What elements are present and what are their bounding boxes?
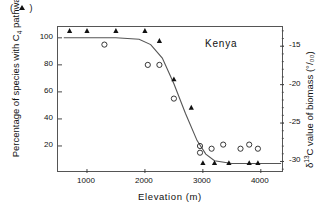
plot-area	[57, 26, 283, 172]
axis-tick-label: 40	[27, 113, 53, 122]
axis-tick-label: 2000	[124, 176, 164, 185]
axis-tick-label: 100	[27, 32, 53, 41]
axis-tick-label: 4000	[240, 176, 280, 185]
axis-tick-label: 3000	[182, 176, 222, 185]
data-layer	[58, 27, 284, 173]
axis-tick-label: -15	[289, 40, 315, 49]
axis-tick-label: -30	[289, 155, 315, 164]
x-axis-label: Elevation (m)	[57, 191, 283, 202]
bottom-axis-ticks	[87, 169, 261, 173]
axis-tick-label: 20	[27, 140, 53, 149]
y-axis-right-label: δ13C value of biomass (°/₀₀)	[303, 51, 315, 168]
series-triangles	[67, 28, 261, 165]
axis-tick-label: 60	[27, 86, 53, 95]
axis-tick-label: 80	[27, 59, 53, 68]
right-axis-ticks	[280, 31, 284, 169]
left-axis-ticks	[58, 38, 62, 146]
y-axis-left-label: Percentage of species with C4 pathway	[10, 0, 23, 170]
series-circles	[102, 42, 261, 155]
axis-tick-label: 1000	[66, 176, 106, 185]
figure-panel: ( ) Kenya Percentage of species with C4 …	[0, 0, 316, 212]
axis-tick-label: -20	[289, 79, 315, 88]
axis-tick-label: -25	[289, 117, 315, 126]
